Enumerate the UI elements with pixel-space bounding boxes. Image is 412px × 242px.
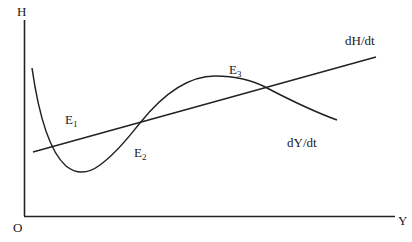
dy-dt-label: dY/dt [287, 136, 317, 149]
equilibrium-e1-label: E1 [65, 113, 77, 129]
phase-diagram: H Y O dH/dt dY/dt E1 E2 E3 [0, 0, 412, 242]
equilibrium-e3-label: E3 [229, 63, 241, 79]
x-axis-label: Y [398, 214, 407, 227]
dh-dt-line [33, 57, 376, 152]
dy-dt-curve [32, 68, 337, 172]
dh-dt-label: dH/dt [345, 34, 375, 47]
y-axis-label: H [17, 5, 26, 18]
equilibrium-e2-label: E2 [134, 146, 146, 162]
origin-label: O [13, 221, 22, 234]
